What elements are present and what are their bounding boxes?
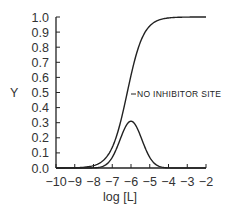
x-tick-label: −7	[105, 175, 119, 189]
x-tick-label: −10	[45, 175, 66, 189]
x-tick-label: −6	[124, 175, 138, 189]
x-tick-label: −2	[199, 175, 213, 189]
y-tick-label: 0.4	[32, 101, 49, 115]
bell-curve-with-inhibitor-site	[56, 121, 206, 168]
y-tick-label: 0.7	[32, 56, 49, 70]
y-axis	[56, 17, 60, 168]
x-tick-label: −5	[143, 175, 157, 189]
x-tick-label: −3	[180, 175, 194, 189]
y-tick-label: 0.9	[32, 26, 49, 40]
y-tick-label: 0.8	[32, 41, 49, 55]
x-tick-label: −9	[68, 175, 82, 189]
y-tick-label: 0.3	[32, 116, 49, 130]
x-tick-label: −4	[161, 175, 175, 189]
y-tick-label: 0.5	[32, 86, 49, 100]
y-tick-label: 1.0	[32, 11, 49, 25]
x-tick-labels: −10−9−8−7−6−5−4−3−2	[45, 175, 213, 189]
y-tick-label: 0.1	[32, 146, 49, 160]
x-tick-label: −8	[86, 175, 100, 189]
y-axis-title: Y	[10, 86, 19, 100]
annotation-no-inhibitor-site: NO INHIBITOR SITE	[137, 89, 221, 99]
y-tick-labels: 0.00.10.20.30.40.50.60.70.80.91.0	[32, 11, 49, 176]
y-tick-label: 0.0	[32, 162, 49, 176]
y-tick-label: 0.6	[32, 71, 49, 85]
x-axis-title: log [L]	[103, 190, 137, 204]
y-tick-label: 0.2	[32, 131, 49, 145]
chart: 0.00.10.20.30.40.50.60.70.80.91.0 −10−9−…	[0, 0, 228, 214]
